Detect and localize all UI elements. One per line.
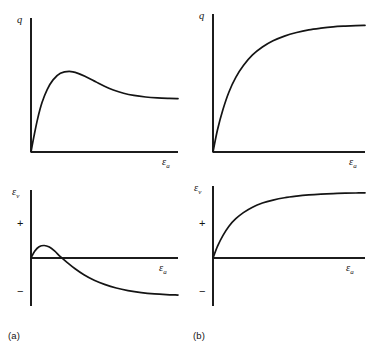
panel-a-volumetric-strain: εv + − εa: [0, 176, 189, 324]
curve-q-loose: [213, 25, 365, 152]
positive-sign-label: +: [199, 217, 205, 229]
curve-ev-dense: [31, 246, 178, 296]
y-axis-label: εv: [12, 186, 20, 200]
curve-q-dense: [31, 71, 178, 152]
figure-root: q εa εv + − εa: [0, 0, 378, 353]
negative-sign-label: −: [17, 285, 23, 297]
x-axis-label: εa: [346, 262, 354, 276]
x-axis-label: εa: [162, 156, 170, 170]
curve-ev-loose: [213, 193, 365, 258]
caption-a: (a): [8, 330, 20, 341]
panel-b-volumetric-strain: εv + − εa: [189, 176, 378, 324]
positive-sign-label: +: [17, 217, 23, 229]
y-axis-label: εv: [194, 182, 202, 196]
x-axis-label: εa: [159, 262, 167, 276]
y-axis-label: q: [199, 10, 204, 21]
panel-a-deviator-stress: q εa: [0, 0, 189, 176]
negative-sign-label: −: [199, 285, 205, 297]
panel-b-deviator-stress: q εa: [189, 0, 378, 176]
x-axis-label: εa: [349, 156, 357, 170]
y-axis-label: q: [17, 14, 22, 25]
caption-b: (b): [193, 330, 205, 341]
